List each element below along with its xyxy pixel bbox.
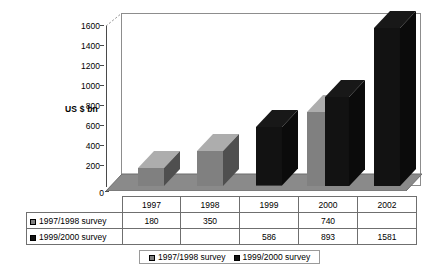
- table-cell: [123, 229, 181, 245]
- bar-2002-series-2: [374, 11, 416, 186]
- table-cell: 1581: [358, 229, 417, 245]
- legend-item: 1997/1998 survey: [149, 252, 226, 262]
- table-column-header: 2002: [358, 197, 417, 213]
- data-table-wrapper: 199719981999200020021997/1998 survey1803…: [26, 196, 416, 245]
- legend-item-label: 1997/1998 survey: [158, 252, 226, 262]
- chart-screenshot: US $ bn 1600140012001000800600400200 0: [0, 0, 442, 274]
- table-column-header: 1999: [240, 197, 299, 213]
- table-row-label-text: 1997/1998 survey: [39, 216, 107, 226]
- table-cell: [358, 213, 417, 229]
- table-cell: 180: [123, 213, 181, 229]
- table-corner-cell: [27, 197, 123, 213]
- table-column-header: 1998: [181, 197, 240, 213]
- legend-item: 1999/2000 survey: [234, 252, 311, 262]
- bar-chart: US $ bn 1600140012001000800600400200 0: [0, 0, 442, 200]
- table-cell: [181, 229, 240, 245]
- table-row-label-text: 1999/2000 survey: [39, 232, 107, 242]
- legend-swatch-icon: [30, 219, 36, 225]
- table-column-header: 2000: [299, 197, 358, 213]
- bar-1998-series-1: [197, 134, 239, 186]
- legend-swatch-icon: [234, 255, 240, 261]
- legend-swatch-icon: [149, 255, 155, 261]
- table-cell: [240, 213, 299, 229]
- legend-swatch-icon: [30, 235, 36, 241]
- table-row: 1999/2000 survey5868931581: [27, 229, 417, 245]
- table-cell: 586: [240, 229, 299, 245]
- table-cell: 893: [299, 229, 358, 245]
- table-row: 1997/1998 survey180350740: [27, 213, 417, 229]
- bar-series-layer: [0, 0, 442, 200]
- data-table: 199719981999200020021997/1998 survey1803…: [26, 196, 417, 245]
- bar-2000-series-2: [325, 80, 365, 186]
- table-row-label: 1997/1998 survey: [27, 213, 123, 229]
- bar-1999-series-2: [256, 110, 298, 186]
- bar-1997-series-1: [138, 151, 180, 186]
- chart-legend: 1997/1998 survey1999/2000 survey: [139, 250, 320, 264]
- table-header-row: 19971998199920002002: [27, 197, 417, 213]
- table-row-label: 1999/2000 survey: [27, 229, 123, 245]
- table-cell: 350: [181, 213, 240, 229]
- table-cell: 740: [299, 213, 358, 229]
- table-column-header: 1997: [123, 197, 181, 213]
- legend-item-label: 1999/2000 survey: [243, 252, 311, 262]
